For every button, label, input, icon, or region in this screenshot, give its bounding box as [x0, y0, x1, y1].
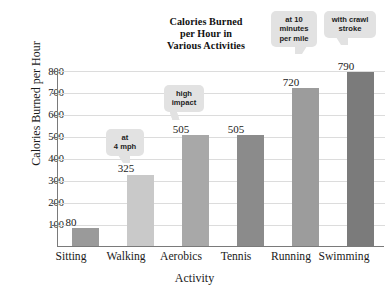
bar-value-aerobics: 505 [159, 123, 203, 135]
callout-running: at 10 minutes per mile [271, 11, 317, 47]
chart-title-line-1: Calories Burned [148, 16, 264, 28]
bar-swimming[interactable] [347, 72, 374, 246]
y-axis-label: Calories Burned per Hour [29, 14, 44, 194]
bar-tennis[interactable] [237, 135, 264, 246]
callout-walking-line-1: at [111, 133, 139, 142]
callout-running-line-1: at 10 [276, 15, 312, 24]
bar-sitting[interactable] [72, 228, 99, 246]
callout-walking: at 4 mph [106, 129, 144, 156]
chart-title-line-2: per Hour in [148, 28, 264, 40]
bar-chart: Calories Burned per Hour in Various Acti… [0, 0, 389, 291]
bar-value-swimming: 790 [324, 60, 368, 72]
callout-aerobics-line-2: impact [169, 98, 199, 107]
bar-running[interactable] [292, 88, 319, 246]
callout-tail-icon [336, 37, 348, 45]
callout-aerobics-line-1: high [169, 89, 199, 98]
plot-area [57, 71, 384, 247]
callout-swimming-line-2: stroke [329, 24, 371, 33]
bar-value-running: 720 [269, 76, 313, 88]
chart-title-line-3: Various Activities [148, 40, 264, 52]
callout-tail-icon [295, 46, 307, 54]
x-tick-label-swimming: Swimming [311, 250, 377, 263]
callout-swimming-line-1: with crawl [329, 15, 371, 24]
callout-tail-icon [118, 155, 130, 163]
callout-running-line-3: per mile [276, 34, 312, 43]
callout-aerobics: high impact [164, 85, 204, 112]
callout-running-line-2: minutes [276, 24, 312, 33]
callout-swimming: with crawl stroke [324, 11, 376, 38]
bar-aerobics[interactable] [182, 135, 209, 246]
gridline-600 [58, 115, 385, 116]
chart-title: Calories Burned per Hour in Various Acti… [148, 16, 264, 53]
gridline-200 [58, 203, 385, 204]
gridline-700 [58, 93, 385, 94]
x-axis-label: Activity [0, 271, 389, 286]
bar-value-walking: 325 [104, 162, 148, 174]
gridline-400 [58, 159, 385, 160]
callout-walking-line-2: 4 mph [111, 142, 139, 151]
gridline-100 [58, 225, 385, 226]
bar-walking[interactable] [127, 175, 154, 247]
bar-value-tennis: 505 [214, 123, 258, 135]
gridline-300 [58, 181, 385, 182]
bar-value-sitting: 80 [49, 216, 93, 228]
